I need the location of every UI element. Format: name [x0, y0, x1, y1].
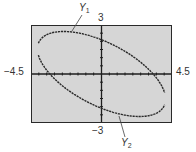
ymin-label: −3 [92, 126, 103, 136]
xmin-label: −4.5 [4, 67, 24, 77]
y1-label: Y1 [79, 3, 90, 14]
y2-leader-line [119, 116, 125, 137]
y2-label-sub: 2 [128, 142, 132, 149]
y2-label: Y2 [121, 138, 132, 149]
y1-leader-line [72, 15, 82, 31]
y1-label-sub: 1 [86, 7, 90, 14]
ymax-label: 3 [98, 13, 104, 23]
y1-label-main: Y [79, 2, 86, 13]
xmax-label: 4.5 [176, 67, 190, 77]
y2-label-main: Y [121, 137, 128, 148]
